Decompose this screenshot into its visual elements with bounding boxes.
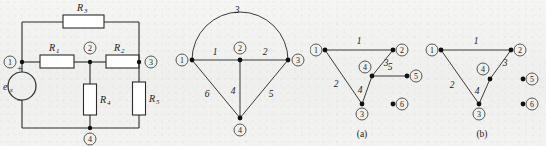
b-node-5: 5 (526, 73, 538, 85)
a-node-3: 3 (356, 108, 368, 120)
graph-vertex-dot-3 (286, 58, 291, 63)
circuit-node-3: 3 (145, 56, 157, 68)
b-edge-2-label: 2 (450, 80, 455, 90)
b-vertex-dot-3 (477, 102, 482, 107)
b-node-1-label: 1 (430, 46, 434, 55)
b-edge-3-label: 3 (502, 58, 508, 68)
subgraph-b-caption: (b) (476, 129, 487, 140)
a-vertex-dot-3 (360, 102, 365, 107)
junction-dot-1 (20, 60, 24, 64)
b-edge-4 (479, 79, 490, 104)
graph-node-3-label: 3 (296, 56, 300, 65)
graph-vertex-dot-1 (190, 58, 195, 63)
a-vertex-dot-5 (405, 74, 410, 79)
subgraph-a-caption: (a) (357, 129, 368, 140)
resistor-R3-subscript: 3 (83, 7, 88, 15)
resistor-R3-label: R (76, 2, 83, 13)
b-node-3-label: 3 (477, 110, 481, 119)
graph-node-4: 4 (234, 124, 246, 136)
b-node-2: 2 (514, 44, 526, 56)
graph-node-4-label: 4 (238, 126, 242, 135)
a-node-1-label: 1 (314, 46, 318, 55)
subgraph-a-panel: 1 2 3 4 5 1 2 3 4 (310, 0, 425, 146)
resistor-R5-body (133, 82, 146, 115)
b-node-4-label: 4 (481, 65, 485, 74)
b-node-3: 3 (473, 108, 485, 120)
junction-dot-4 (88, 126, 92, 130)
b-vertex-dot-5 (521, 77, 526, 82)
resistor-R5-subscript: 5 (156, 98, 160, 106)
graph-node-2-label: 2 (238, 44, 242, 53)
b-node-2-label: 2 (518, 46, 522, 55)
b-node-6: 6 (526, 98, 538, 110)
b-vertex-dot-2 (509, 48, 514, 53)
source-label: e (3, 81, 8, 92)
b-vertex-dot-4 (488, 77, 493, 82)
b-edge-1-label: 1 (474, 36, 479, 46)
a-node-4: 4 (359, 61, 371, 73)
b-edge-2 (441, 50, 479, 104)
graph-node-3: 3 (292, 54, 304, 66)
resistor-R2-body (106, 55, 139, 68)
a-node-2: 2 (396, 44, 408, 56)
a-edge-5-label: 5 (388, 62, 393, 72)
circuit-node-4-label: 4 (88, 135, 92, 144)
circuit-node-1: 1 (4, 56, 16, 68)
a-edge-2 (325, 50, 362, 104)
b-node-1: 1 (426, 44, 438, 56)
a-edge-4-label: 4 (358, 85, 363, 95)
source-plus-sign: + (17, 63, 23, 74)
graph-edge-5-label: 5 (269, 89, 274, 99)
subgraph-b-panel: 1 2 3 4 1 2 3 4 (425, 0, 546, 146)
circuit-node-2-label: 2 (88, 44, 92, 53)
a-node-3-label: 3 (360, 110, 364, 119)
a-edge-2-label: 2 (334, 79, 339, 89)
circuit-node-3-label: 3 (149, 58, 153, 67)
graph-vertex-dot-2 (238, 58, 243, 63)
graph-vertex-dot-4 (238, 116, 243, 121)
b-edge-3 (490, 50, 511, 79)
circuit-panel: R 3 + − e s R 1 R 2 R 4 R 5 (0, 0, 170, 146)
graph-panel: 3 1 2 4 5 6 1 2 3 (170, 0, 310, 146)
resistor-R1-label: R (48, 42, 55, 53)
resistor-R1-subscript: 1 (56, 47, 60, 55)
a-vertex-dot-1 (323, 48, 328, 53)
graph-node-1-label: 1 (180, 56, 184, 65)
graph-edge-1-label: 1 (213, 47, 218, 57)
circuit-node-2: 2 (84, 42, 96, 54)
source-subscript: s (10, 86, 13, 94)
graph-edge-2-label: 2 (263, 47, 268, 57)
a-node-5: 5 (410, 70, 422, 82)
junction-dot-2 (88, 60, 92, 64)
resistor-R3-body (63, 15, 104, 28)
source-minus-sign: − (17, 95, 23, 106)
a-vertex-dot-2 (391, 48, 396, 53)
junction-dot-3 (137, 60, 141, 64)
a-node-1: 1 (310, 44, 322, 56)
a-edge-1-label: 1 (357, 36, 362, 46)
b-node-4: 4 (477, 63, 489, 75)
a-node-2-label: 2 (400, 46, 404, 55)
b-node-6-label: 6 (530, 100, 534, 109)
graph-node-1: 1 (176, 54, 188, 66)
resistor-R5-label: R (148, 93, 155, 104)
graph-edge-3-label: 3 (234, 5, 240, 15)
graph-edge-4-label: 4 (231, 86, 236, 96)
resistor-R4-body (84, 84, 97, 115)
resistor-R2-label: R (113, 42, 120, 53)
graph-edge-6-label: 6 (205, 89, 210, 99)
a-node-4-label: 4 (363, 63, 367, 72)
resistor-R4-label: R (99, 94, 106, 105)
a-node-5-label: 5 (414, 72, 418, 81)
resistor-R2-subscript: 2 (121, 47, 125, 55)
a-node-6-label: 6 (400, 100, 404, 109)
graph-edge-5 (240, 60, 288, 118)
b-vertex-dot-6 (521, 102, 526, 107)
b-edge-4-label: 4 (475, 86, 480, 96)
a-vertex-dot-6 (391, 102, 396, 107)
circuit-node-1-label: 1 (8, 58, 12, 67)
circuit-node-4: 4 (84, 133, 96, 145)
resistor-R4-subscript: 4 (107, 99, 111, 107)
b-node-5-label: 5 (530, 75, 534, 84)
b-vertex-dot-1 (439, 48, 444, 53)
